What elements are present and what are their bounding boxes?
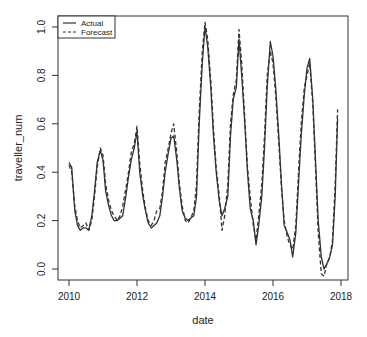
y-tick-label: 1.0 bbox=[36, 20, 47, 34]
series-actual-line bbox=[69, 27, 338, 269]
legend: Actual Forecast bbox=[58, 16, 115, 38]
x-tick-label: 2012 bbox=[126, 291, 149, 302]
y-tick-label: 0.8 bbox=[36, 68, 47, 82]
y-tick-label: 0.2 bbox=[36, 213, 47, 227]
series-forecast-line bbox=[69, 22, 338, 276]
y-axis-label: traveller_num bbox=[12, 115, 24, 182]
x-axis-label: date bbox=[192, 314, 213, 326]
y-axis: 0.00.20.40.60.81.0 bbox=[36, 20, 58, 276]
y-tick-label: 0.0 bbox=[36, 262, 47, 276]
x-tick-label: 2010 bbox=[58, 291, 81, 302]
series-lines bbox=[69, 22, 338, 276]
y-tick-label: 0.4 bbox=[36, 165, 47, 179]
legend-label-actual: Actual bbox=[81, 19, 103, 28]
x-tick-label: 2014 bbox=[194, 291, 217, 302]
y-tick-label: 0.6 bbox=[36, 116, 47, 130]
x-axis: 20102012201420162018 bbox=[58, 280, 353, 302]
legend-label-forecast: Forecast bbox=[81, 28, 113, 37]
x-tick-label: 2018 bbox=[330, 291, 353, 302]
x-tick-label: 2016 bbox=[262, 291, 285, 302]
line-chart: 20102012201420162018 0.00.20.40.60.81.0 … bbox=[0, 0, 367, 337]
